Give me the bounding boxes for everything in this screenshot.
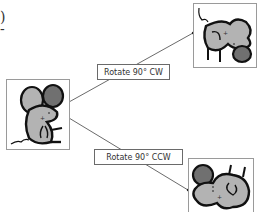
mouse-icon: + (7, 80, 69, 149)
mouse-original-image: + (6, 79, 70, 150)
mouse-icon: + (194, 4, 256, 67)
edge-label-rotate-cw: Rotate 90° CW (97, 64, 170, 80)
mouse-rotated-ccw-image: + (188, 158, 254, 212)
edge-label-rotate-ccw: Rotate 90° CCW (94, 149, 183, 165)
svg-text:+: + (40, 114, 45, 121)
mouse-icon: + (189, 159, 253, 212)
svg-text:+: + (223, 29, 228, 36)
svg-text:+: + (217, 193, 222, 200)
mouse-rotated-cw-image: + (193, 3, 257, 68)
